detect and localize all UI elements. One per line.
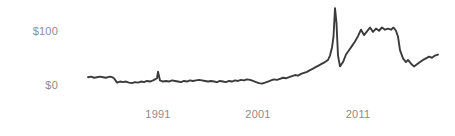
- sparkline-chart: $100 $0 1991 2001 2011: [0, 0, 455, 136]
- plot-area: [0, 0, 455, 136]
- price-line: [88, 8, 438, 84]
